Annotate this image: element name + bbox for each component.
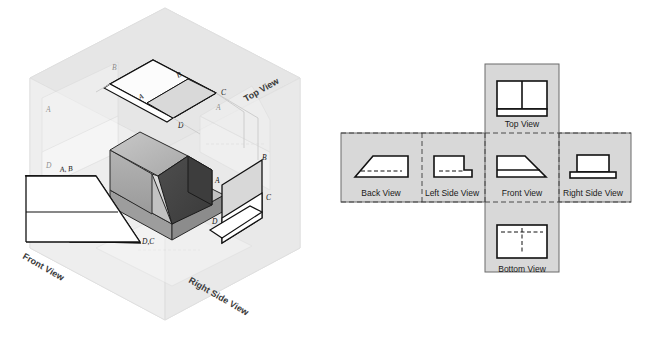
right-side-view-shape — [570, 155, 616, 178]
svg-text:A, B: A, B — [58, 164, 73, 174]
right-side-view-label: Right Side View — [563, 188, 624, 198]
six-view-svg: Top View Back View Left Side View — [330, 0, 650, 338]
svg-text:B: B — [262, 153, 267, 162]
svg-text:B: B — [112, 63, 117, 72]
top-view-label: Top View — [505, 119, 540, 129]
unfolded-six-view-panel: Top View Back View Left Side View — [330, 0, 650, 338]
glass-box-svg: A D B A B — [0, 0, 330, 338]
svg-text:D: D — [211, 217, 218, 226]
svg-text:D: D — [45, 161, 52, 170]
svg-text:D,C: D,C — [141, 237, 155, 246]
svg-text:A: A — [45, 105, 51, 114]
figure-canvas: A D B A B — [0, 0, 650, 338]
bottom-view-label: Bottom View — [498, 264, 546, 274]
left-side-view-label: Left Side View — [425, 188, 480, 198]
back-view-label: Back View — [361, 188, 401, 198]
front-view-label: Front View — [502, 188, 543, 198]
top-view-shape — [497, 81, 547, 116]
bottom-view-shape — [497, 225, 547, 258]
svg-text:A: A — [214, 176, 220, 185]
svg-text:A: A — [215, 103, 221, 112]
glass-box-isometric-panel: A D B A B — [0, 0, 330, 338]
bottom-view-cell: Bottom View — [497, 225, 547, 274]
